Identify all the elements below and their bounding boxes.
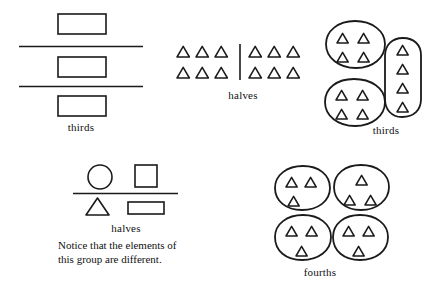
triangle xyxy=(358,33,369,43)
triangle xyxy=(287,46,299,57)
triangle xyxy=(358,52,369,62)
caption-thirds-blobs: thirds xyxy=(373,124,399,137)
triangle xyxy=(337,52,348,62)
triangle xyxy=(357,90,368,100)
caption-thirds-bars: thirds xyxy=(68,121,94,134)
triangle xyxy=(344,195,355,205)
rectangle-shape xyxy=(128,202,164,214)
triangle xyxy=(397,83,408,93)
triangle xyxy=(288,196,299,206)
triangle xyxy=(343,226,354,236)
note-block: Notice that the elements of this group a… xyxy=(58,238,248,266)
loop-outline xyxy=(333,215,388,260)
note-line-2: this group are different. xyxy=(58,252,248,266)
bar-rectangle-2 xyxy=(58,57,106,77)
triangle xyxy=(286,226,297,236)
group-thirds-blobs xyxy=(325,21,421,126)
loop-outline xyxy=(385,38,421,117)
loop-outline xyxy=(275,166,330,210)
circle-shape xyxy=(88,165,112,189)
triangle xyxy=(337,33,348,43)
triangle xyxy=(177,67,189,78)
triangle xyxy=(249,46,261,57)
loop-outline xyxy=(275,215,331,260)
triangle xyxy=(363,226,374,236)
triangle xyxy=(336,109,347,119)
group-halves-triangles xyxy=(177,44,299,80)
triangle xyxy=(196,46,208,57)
loop-outline xyxy=(334,165,389,210)
note-line-1: Notice that the elements of xyxy=(58,238,248,252)
triangle xyxy=(306,226,317,236)
triangle xyxy=(287,67,299,78)
triangle xyxy=(305,177,316,187)
triangle xyxy=(268,67,280,78)
triangle xyxy=(296,246,307,256)
square-shape xyxy=(135,165,157,187)
triangle xyxy=(353,246,364,256)
triangle xyxy=(286,177,297,187)
triangle xyxy=(357,109,368,119)
triangle xyxy=(336,90,347,100)
triangle xyxy=(177,46,189,57)
triangle xyxy=(397,45,408,55)
loop-outline xyxy=(325,79,385,126)
group-fourths-blobs xyxy=(275,165,389,260)
triangle xyxy=(196,67,208,78)
triangle xyxy=(215,46,227,57)
bar-rectangle-1 xyxy=(58,14,106,34)
triangle xyxy=(215,67,227,78)
group-thirds-bars xyxy=(19,14,143,116)
triangle xyxy=(397,64,408,74)
caption-halves-triangles: halves xyxy=(228,89,257,102)
triangle xyxy=(356,175,367,185)
loop-outline xyxy=(326,21,385,68)
triangle xyxy=(397,102,408,112)
caption-fourths-blobs: fourths xyxy=(304,266,337,279)
figure-page: thirds halves thirds halves fourths Noti… xyxy=(0,0,438,295)
triangle xyxy=(249,67,261,78)
bar-rectangle-3 xyxy=(58,96,106,116)
triangle-shape xyxy=(86,198,109,215)
caption-halves-mixed: halves xyxy=(111,222,140,235)
group-halves-mixed xyxy=(73,165,178,215)
triangle xyxy=(365,195,376,205)
triangle xyxy=(268,46,280,57)
